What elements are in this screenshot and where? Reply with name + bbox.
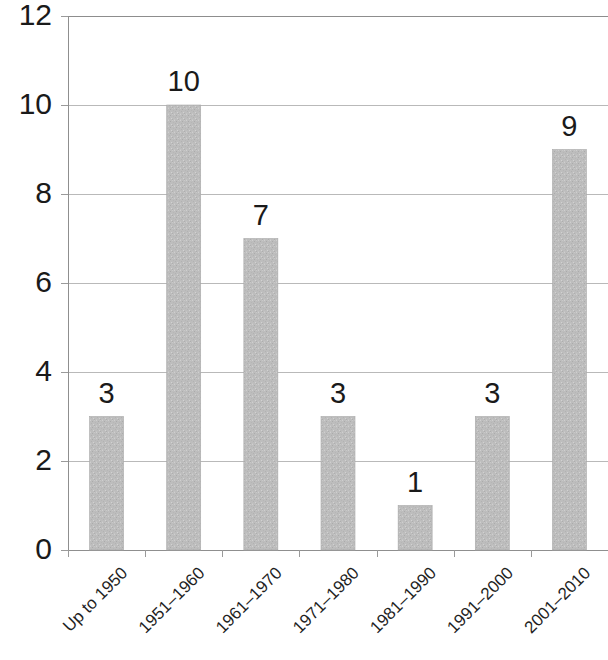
bar	[321, 417, 355, 551]
y-tick-labels: 024681012	[19, 0, 52, 565]
bar	[475, 417, 509, 551]
bar	[552, 150, 586, 551]
x-tick-label: 2001–2010	[521, 563, 595, 637]
bar-value-label: 9	[561, 110, 577, 142]
bar	[398, 506, 432, 551]
y-tick-label: 0	[35, 532, 52, 565]
chart-canvas: 024681012 31073139 Up to 19501951–196019…	[0, 0, 608, 660]
x-tick-label: 1991–2000	[444, 563, 518, 637]
x-tick-labels: Up to 19501951–19601961–19701971–1980198…	[59, 563, 594, 637]
y-tick-label: 10	[19, 87, 52, 120]
bar-value-label: 3	[330, 377, 346, 409]
y-tick-marks	[61, 17, 68, 551]
y-tick-label: 8	[35, 176, 52, 209]
bar	[90, 417, 124, 551]
bar-value-label: 3	[99, 377, 115, 409]
x-tick-label: 1951–1960	[135, 563, 209, 637]
y-tick-label: 2	[35, 443, 52, 476]
bar-value-label: 1	[407, 466, 423, 498]
y-tick-label: 12	[19, 0, 52, 31]
x-tick-label: Up to 1950	[59, 563, 131, 635]
bar-value-label: 7	[253, 199, 269, 231]
x-tick-label: 1961–1970	[212, 563, 286, 637]
bars	[90, 105, 587, 550]
bar-value-label: 10	[168, 65, 200, 97]
bar	[244, 239, 278, 551]
x-tick-label: 1981–1990	[366, 563, 440, 637]
bar-value-label: 3	[484, 377, 500, 409]
y-tick-label: 6	[35, 265, 52, 298]
bar	[167, 105, 201, 550]
y-tick-label: 4	[35, 354, 52, 387]
bar-chart: 024681012 31073139 Up to 19501951–196019…	[0, 0, 608, 660]
x-tick-label: 1971–1980	[289, 563, 363, 637]
